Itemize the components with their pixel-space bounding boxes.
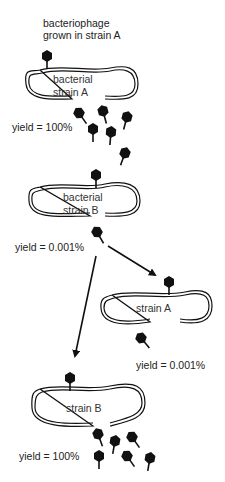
cell-3-label: strain A <box>136 302 171 315</box>
arrow-to-strain-b <box>75 256 96 356</box>
cell-2-label-line-2: strain B <box>63 204 99 217</box>
title-line-2: grown in strain A <box>43 29 121 41</box>
cell-2-label-line-1: bacterial <box>63 191 103 204</box>
phage-restriction-diagram: bacteriophage grown in strain A bacteria… <box>0 0 225 482</box>
cell-1-label-line-2: strain A <box>53 86 88 99</box>
title-line-1: bacteriophage <box>43 17 110 29</box>
arrow-to-strain-a <box>108 246 155 275</box>
phage-progeny-icons <box>91 427 156 472</box>
phage-icon <box>42 50 52 69</box>
cell-1-label-line-1: bacterial <box>53 73 93 86</box>
cell-1-yield: yield = 100% <box>12 121 72 133</box>
phage-progeny-icons <box>71 104 133 167</box>
phage-icon <box>164 276 174 295</box>
cell-4-label: strain B <box>66 402 102 415</box>
phage-progeny-icon <box>133 330 153 351</box>
cell-4-yield: yield = 100% <box>19 450 79 462</box>
cell-3-yield: yield = 0.001% <box>136 359 205 371</box>
phage-progeny-icon <box>90 224 108 245</box>
phage-icon <box>65 372 75 391</box>
cell-2-yield: yield = 0.001% <box>15 241 84 253</box>
